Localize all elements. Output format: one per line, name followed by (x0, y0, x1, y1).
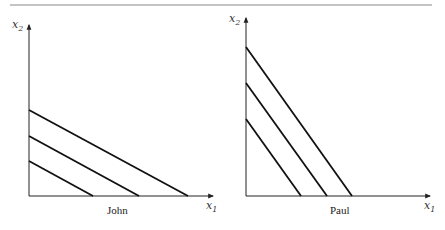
budget-line (29, 136, 139, 196)
indifference-diagram: x2 x1 John x2 x1 Paul (0, 0, 445, 230)
budget-line (246, 47, 352, 196)
y-axis-label: x2 (12, 18, 23, 33)
panel-paul: x2 x1 Paul (229, 12, 435, 216)
panel-label: John (107, 204, 128, 216)
budget-line (246, 119, 301, 196)
x-axis-label: x1 (424, 199, 435, 214)
budget-line (246, 83, 327, 196)
x-axis-label: x1 (206, 199, 217, 214)
budget-line (29, 110, 188, 196)
panel-label: Paul (330, 204, 350, 216)
y-axis-label: x2 (229, 12, 240, 27)
panel-john: x2 x1 John (12, 18, 217, 216)
